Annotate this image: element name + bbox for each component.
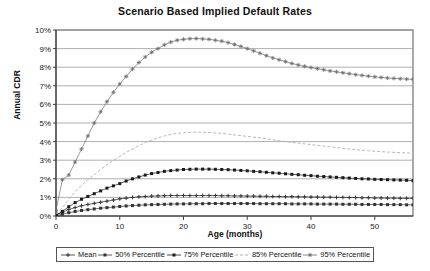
data-point (163, 170, 166, 173)
data-point (125, 180, 128, 183)
data-point (322, 175, 325, 178)
data-point (341, 176, 344, 179)
legend-swatch-icon (234, 251, 250, 259)
data-point (74, 210, 77, 213)
data-point (373, 203, 376, 206)
y-tick-label: 7% (39, 82, 51, 91)
data-point (157, 171, 160, 174)
data-point (188, 202, 191, 205)
x-tick-label: 0 (54, 222, 59, 231)
data-point (259, 202, 262, 205)
data-point (208, 202, 211, 205)
legend-item-1[interactable]: Mean (60, 251, 97, 259)
data-point (284, 172, 287, 175)
data-point (239, 169, 242, 172)
data-point (131, 204, 134, 207)
legend-item-3[interactable]: 75% Percentile (166, 251, 234, 259)
data-point (118, 182, 121, 185)
data-point (335, 203, 338, 206)
data-point (144, 203, 147, 206)
data-point (67, 211, 70, 214)
data-point (284, 202, 287, 205)
legend-item-5[interactable]: 95% Percentile (302, 251, 370, 259)
data-point (233, 169, 236, 172)
data-point (354, 203, 357, 206)
data-point (214, 168, 217, 171)
data-point (412, 203, 415, 206)
y-tick-label: 2% (39, 175, 51, 184)
data-point (373, 178, 376, 181)
data-point (271, 202, 274, 205)
data-point (195, 202, 198, 205)
data-point (329, 175, 332, 178)
y-tick-label: 1% (39, 193, 51, 202)
x-tick-label: 40 (307, 222, 316, 231)
data-point (137, 204, 140, 207)
chart-legend: Mean50% Percentile75% Percentile85% Perc… (56, 247, 374, 262)
legend-swatch-icon (302, 251, 318, 259)
data-point (278, 202, 281, 205)
y-tick-label: 4% (39, 138, 51, 147)
data-point (125, 204, 128, 207)
data-point (297, 173, 300, 176)
data-point (380, 178, 383, 181)
data-point (239, 202, 242, 205)
data-point (322, 203, 325, 206)
data-point (316, 175, 319, 178)
legend-item-4[interactable]: 85% Percentile (234, 251, 302, 259)
data-point (112, 206, 115, 209)
data-point (93, 192, 96, 195)
data-point (201, 202, 204, 205)
legend-item-label: 75% Percentile (184, 251, 234, 258)
data-point (271, 171, 274, 174)
data-point (80, 198, 83, 201)
legend-swatch-icon (60, 251, 76, 259)
data-point (341, 203, 344, 206)
data-point (220, 202, 223, 205)
data-point (220, 168, 223, 171)
data-point (182, 202, 185, 205)
data-point (361, 177, 364, 180)
data-point (405, 203, 408, 206)
data-point (386, 178, 389, 181)
data-point (290, 173, 293, 176)
legend-swatch-icon (166, 251, 182, 259)
data-point (354, 177, 357, 180)
data-point (144, 174, 147, 177)
data-point (297, 202, 300, 205)
data-point (361, 203, 364, 206)
data-point (195, 168, 198, 171)
data-point (131, 177, 134, 180)
data-point (80, 209, 83, 212)
data-point (99, 207, 102, 210)
data-point (412, 179, 415, 182)
data-point (252, 170, 255, 173)
legend-item-label: 50% Percentile (115, 251, 165, 258)
data-point (61, 210, 64, 213)
data-point (265, 202, 268, 205)
data-point (278, 172, 281, 175)
y-tick-label: 9% (39, 45, 51, 54)
data-point (93, 207, 96, 210)
data-point (386, 203, 389, 206)
data-point (252, 202, 255, 205)
x-tick-label: 10 (115, 222, 124, 231)
data-point (290, 202, 293, 205)
data-point (137, 175, 140, 178)
plot-area: 0%1%2%3%4%5%6%7%8%9%10%01020304050 (0, 0, 430, 271)
data-point (169, 169, 172, 172)
data-point (348, 203, 351, 206)
data-point (214, 202, 217, 205)
data-point (188, 168, 191, 171)
data-point (86, 208, 89, 211)
y-tick-label: 0% (39, 212, 51, 221)
data-point (316, 203, 319, 206)
data-point (118, 205, 121, 208)
legend-item-2[interactable]: 50% Percentile (97, 251, 165, 259)
y-tick-label: 3% (39, 156, 51, 165)
data-point (106, 187, 109, 190)
data-point (310, 174, 313, 177)
data-point (106, 206, 109, 209)
legend-swatch-icon (97, 251, 113, 259)
data-point (150, 172, 153, 175)
